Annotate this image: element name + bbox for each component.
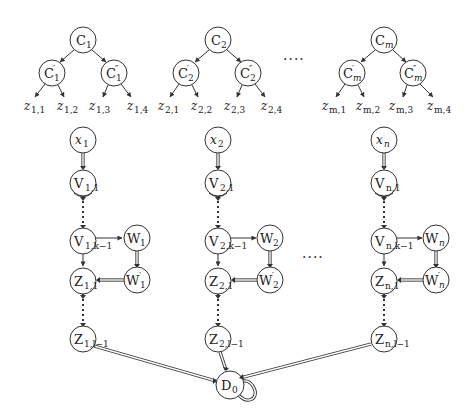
tree-edge	[237, 85, 242, 97]
leaf-z-m-1: zm,1	[321, 99, 346, 115]
svg-text:2: 2	[273, 238, 279, 248]
node-z-n-1: Zn,1	[371, 268, 399, 294]
svg-text:n,l−1: n,l−1	[385, 339, 410, 349]
node-z-2-1: Z2,1	[205, 268, 233, 294]
svg-text:Z: Z	[74, 332, 83, 347]
svg-text:D: D	[221, 378, 231, 393]
svg-text:W: W	[127, 231, 141, 246]
svg-text:1: 1	[140, 280, 146, 290]
diagram-canvas: C 1 C ′ 1 C ″ 1 z1,1 z1,2 z1,3 z1,4 C	[0, 0, 473, 410]
node-x2: x2	[205, 127, 231, 153]
svg-text:1: 1	[54, 73, 60, 83]
node-c2-double-prime: C ″ 2	[235, 60, 261, 86]
node-xn: xn	[371, 127, 397, 153]
tree-ellipsis: ····	[283, 51, 305, 67]
svg-text:2,1: 2,1	[219, 281, 233, 291]
tree-m: C m C ′ m C ″ m zm,1 zm,2 zm,3 zm,4	[321, 27, 451, 115]
svg-text:2,l−1: 2,l−1	[219, 339, 244, 349]
svg-text:W: W	[425, 231, 439, 246]
svg-text:1,k−1: 1,k−1	[85, 241, 112, 251]
svg-text:V: V	[73, 176, 84, 191]
svg-text:m,1: m,1	[329, 105, 346, 115]
svg-text:m,4: m,4	[434, 105, 451, 115]
svg-text:V: V	[374, 176, 385, 191]
node-c1: C 1	[70, 27, 96, 53]
tree-edge	[58, 85, 64, 97]
arrowhead-in-top	[223, 367, 229, 371]
tree-edge	[403, 85, 407, 97]
svg-text:1: 1	[140, 238, 146, 248]
svg-text:1,4: 1,4	[134, 105, 149, 115]
leaf-z-1-1: z1,1	[23, 99, 45, 115]
svg-text:1,1: 1,1	[31, 105, 45, 115]
node-v-1-k-1: V1,k−1	[70, 228, 112, 254]
node-c2: C 2	[205, 27, 231, 53]
svg-text:2,1: 2,1	[165, 105, 179, 115]
tree-edge	[170, 84, 179, 97]
svg-text:x: x	[210, 133, 217, 147]
svg-text:0: 0	[232, 385, 238, 395]
svg-text:C: C	[76, 33, 86, 48]
svg-text:n,1: n,1	[385, 281, 399, 291]
svg-text:m,2: m,2	[363, 105, 380, 115]
svg-text:z: z	[260, 99, 268, 113]
svg-text:1,1: 1,1	[85, 183, 99, 193]
tree-1: C 1 C ′ 1 C ″ 1 z1,1 z1,2 z1,3 z1,4	[23, 27, 149, 115]
svg-text:1,2: 1,2	[64, 105, 78, 115]
svg-text:1: 1	[86, 40, 92, 50]
tree-edge	[420, 84, 433, 97]
leaf-z-m-2: zm,2	[355, 99, 380, 115]
node-v-n-1: Vn,1	[371, 170, 400, 197]
svg-text:2: 2	[218, 139, 224, 149]
node-v-1-1: V1,1	[70, 170, 99, 197]
svg-text:1: 1	[116, 73, 122, 83]
tree-edge	[393, 50, 406, 62]
svg-text:2,4: 2,4	[268, 105, 283, 115]
svg-text:z: z	[88, 99, 96, 113]
leaf-z-1-4: z1,4	[126, 99, 149, 115]
svg-text:2,3: 2,3	[231, 105, 246, 115]
node-cm-double-prime: C ″ m	[400, 60, 426, 86]
node-z-1-l-1: Z1,l−1	[70, 326, 109, 352]
tree-2: C 2 C ′ 2 C ″ 2 z2,1 z2,2 z2,3 z2,4	[157, 27, 283, 115]
svg-text:z: z	[190, 99, 198, 113]
node-w1: W1	[124, 225, 150, 251]
svg-text:m: m	[414, 73, 423, 83]
node-c1-prime: C ′ 1	[39, 60, 65, 86]
tree-edge	[92, 50, 106, 62]
svg-text:z: z	[223, 99, 231, 113]
svg-text:V: V	[374, 234, 385, 249]
tree-edge	[192, 85, 198, 97]
node-wn: Wn	[423, 225, 449, 251]
tree-edge	[358, 85, 364, 97]
chain-ellipsis: ····	[302, 249, 324, 265]
node-v-2-1: V2,1	[205, 170, 234, 197]
svg-text:W: W	[126, 273, 140, 288]
tree-edge	[60, 50, 74, 62]
node-z-n-l-1: Zn,l−1	[371, 326, 410, 352]
leaf-z-2-3: z2,3	[223, 99, 246, 115]
svg-text:z: z	[321, 99, 329, 113]
svg-text:2: 2	[188, 73, 194, 83]
node-w2: W2	[257, 225, 283, 251]
node-cm-prime: C ′ m	[339, 60, 365, 86]
svg-text:V: V	[208, 234, 219, 249]
node-wn-prime: W′n	[423, 267, 449, 293]
leaf-z-1-2: z1,2	[56, 99, 78, 115]
svg-text:z: z	[426, 99, 434, 113]
leaf-z-2-1: z2,1	[157, 99, 179, 115]
tree-edge	[35, 84, 45, 97]
svg-text:V: V	[208, 176, 219, 191]
svg-text:2: 2	[221, 40, 227, 50]
svg-text:n,1: n,1	[386, 183, 400, 193]
node-c1-double-prime: C ″ 1	[101, 60, 127, 86]
tree-edge	[227, 50, 241, 62]
svg-text:m,3: m,3	[396, 105, 413, 115]
node-z-2-l-1: Z2,l−1	[205, 326, 244, 352]
svg-text:Z: Z	[74, 274, 83, 289]
node-v-2-k-1: V2,k−1	[205, 228, 247, 254]
svg-text:n: n	[384, 139, 390, 149]
tree-edge	[255, 84, 265, 97]
tree-edge	[195, 50, 209, 62]
svg-text:W: W	[260, 231, 274, 246]
